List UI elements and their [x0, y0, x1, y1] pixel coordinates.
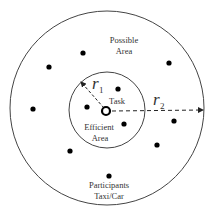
possible-area-label-line1: Possible: [110, 35, 139, 45]
participants-label-line1: Participants: [89, 180, 129, 190]
r1-subscript: 1: [99, 85, 104, 95]
participant-dot: [166, 60, 171, 65]
possible-area-label-line2: Area: [116, 46, 133, 56]
participant-dot: [106, 173, 111, 178]
efficient-area-label-line2: Area: [92, 133, 109, 143]
r1-label: r: [92, 74, 99, 93]
participant-dot: [67, 148, 72, 153]
participant-dot: [115, 86, 120, 91]
r2-radius-arrow: [112, 110, 203, 111]
participant-dot: [121, 121, 126, 126]
participant-dot: [154, 142, 159, 147]
participant-dot: [84, 104, 89, 109]
participant-dot: [30, 106, 35, 111]
participants-label-line2: Taxi/Car: [94, 191, 124, 201]
participant-dot: [80, 50, 85, 55]
r2-subscript: 2: [160, 101, 165, 111]
task-label: Task: [109, 96, 126, 106]
participant-dot: [171, 118, 176, 123]
efficient-area-label-line1: Efficient: [84, 122, 114, 132]
area-diagram: Possible Area Task Efficient Area Partic…: [0, 0, 214, 218]
r2-label: r: [153, 90, 160, 109]
participant-dot: [46, 64, 51, 69]
task-marker: [102, 107, 110, 115]
